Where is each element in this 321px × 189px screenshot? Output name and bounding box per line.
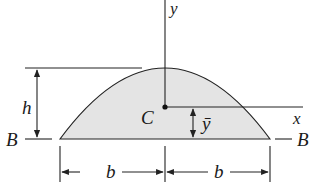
- base-right-label: B: [297, 129, 309, 150]
- height-label: h: [22, 97, 32, 118]
- half-width-left-label: b: [106, 161, 116, 182]
- diagram-canvas: y x C h ȳ B B b b: [0, 0, 321, 189]
- half-width-right-label: b: [214, 161, 224, 182]
- diagram-svg: y x C h ȳ B B b b: [0, 0, 321, 189]
- base-left-label: B: [6, 129, 18, 150]
- y-axis-label: y: [168, 0, 178, 18]
- ybar-label: ȳ: [200, 113, 211, 134]
- centroid-label: C: [141, 107, 154, 128]
- centroid-dot: [162, 104, 167, 109]
- x-axis-label: x: [292, 109, 301, 128]
